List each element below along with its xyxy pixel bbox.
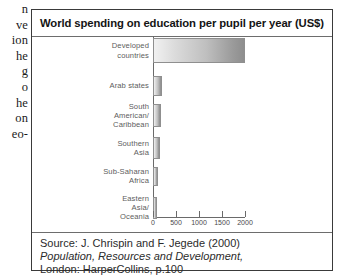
source-line-1: Source: J. Chrispin and F. Jegede (2000) — [40, 237, 243, 250]
bar-chart-row: SouthernAsia — [32, 137, 334, 159]
bar — [153, 104, 161, 127]
category-label-line: South — [32, 102, 149, 111]
category-label-line: Developed — [32, 41, 149, 50]
source-line-2: Population, Resources and Development, — [40, 250, 243, 263]
category-label-line: Africa — [32, 176, 149, 185]
margin-text-line: ion — [0, 33, 28, 49]
margin-text-line: n — [0, 2, 28, 18]
bar-chart-plot-area: DevelopedcountriesArab statesSouthAmeric… — [32, 36, 334, 232]
margin-text-line: ve — [0, 18, 28, 34]
x-axis-tick-label: 2000 — [237, 219, 253, 226]
source-divider — [32, 232, 332, 233]
bar-track — [153, 38, 334, 63]
source-citation: Source: J. Chrispin and F. Jegede (2000)… — [40, 237, 243, 277]
category-label-line: American/ — [32, 111, 149, 120]
x-axis-tick-label: 1500 — [214, 219, 230, 226]
category-label-line: Southern — [32, 139, 149, 148]
category-label: SouthernAsia — [32, 139, 153, 157]
bar-chart-row: Sub-SaharanAfrica — [32, 165, 334, 187]
bar-track — [153, 76, 334, 96]
figure-box: World spending on education per pupil pe… — [31, 9, 333, 271]
category-label-line: Caribbean — [32, 120, 149, 129]
x-axis-tick — [222, 211, 223, 217]
x-axis-tick — [245, 211, 246, 217]
margin-text-line: g — [0, 64, 28, 80]
source-line-3: London: HarperCollins, p.100 — [40, 263, 243, 276]
x-axis-tick-label: 0 — [151, 219, 155, 226]
bar-chart-row: Arab states — [32, 76, 334, 96]
category-label-line: Oceania — [32, 212, 149, 221]
bar-track — [153, 137, 334, 159]
bar — [153, 38, 245, 63]
x-axis-tick-label: 1000 — [191, 219, 207, 226]
category-label-line: Eastern — [32, 194, 149, 203]
x-axis-tick — [199, 211, 200, 217]
category-label: EasternAsia/Oceania — [32, 194, 153, 222]
margin-text-line: on — [0, 111, 28, 127]
category-label-line: Sub-Saharan — [32, 167, 149, 176]
margin-text-line: he — [0, 96, 28, 112]
x-axis-tick — [153, 211, 154, 217]
bar-track — [153, 100, 334, 131]
chart-title: World spending on education per pupil pe… — [40, 17, 324, 29]
bar-track — [153, 165, 334, 187]
bar-chart-row: Developedcountries — [32, 38, 334, 63]
bar — [153, 137, 160, 159]
category-label-line: Arab states — [32, 81, 149, 90]
category-label: Developedcountries — [32, 41, 153, 59]
category-label-line: Asia — [32, 148, 149, 157]
bar — [153, 76, 162, 96]
margin-text-line: he — [0, 49, 28, 65]
bar — [153, 167, 158, 186]
page-margin-text: n ve ion he g o he on eo- — [0, 2, 28, 142]
bar-chart-row: EasternAsia/Oceania — [32, 192, 334, 223]
bar-chart-row: SouthAmerican/Caribbean — [32, 100, 334, 131]
x-axis-tick — [176, 211, 177, 217]
margin-text-line: eo- — [0, 127, 28, 143]
x-axis-tick-label: 500 — [170, 219, 182, 226]
category-label: Arab states — [32, 81, 153, 90]
category-label: SouthAmerican/Caribbean — [32, 102, 153, 130]
margin-text-line: o — [0, 80, 28, 96]
category-label-line: countries — [32, 51, 149, 60]
category-label-line: Asia/ — [32, 203, 149, 212]
category-label: Sub-SaharanAfrica — [32, 167, 153, 185]
